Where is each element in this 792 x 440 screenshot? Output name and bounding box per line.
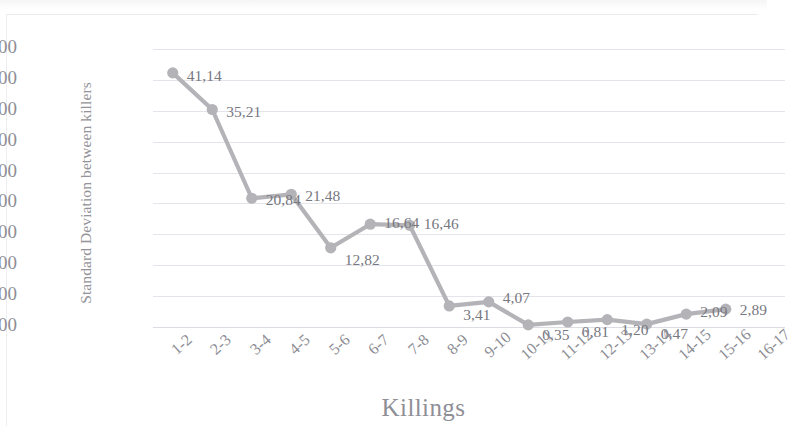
x-axis-title: Killings [40, 394, 792, 422]
data-point-marker [167, 67, 178, 78]
x-axis-tick-label-text: 2-3 [204, 328, 235, 359]
data-point-label: 4,07 [503, 289, 530, 307]
data-point-label: 20,84 [266, 191, 301, 209]
scan-border-top [6, 14, 758, 15]
plot-area: 0,005,0010,0015,0020,0025,0030,0035,0040… [153, 49, 785, 327]
x-axis-tick-label-text: 5-6 [323, 328, 354, 359]
y-axis-tick-label-text: 10,00 [0, 252, 17, 274]
y-axis-tick-label-text: 5,00 [0, 283, 17, 305]
y-axis-tick-label-text: 25,00 [0, 160, 17, 182]
cropped-title-remnant [0, 0, 767, 10]
x-axis-tick-label-text: 8-9 [441, 328, 472, 359]
data-point-label: 12,82 [345, 251, 380, 269]
data-point-marker [207, 104, 218, 115]
data-point-label: 16,46 [424, 215, 459, 233]
x-axis-tick-label-text: 9-10 [478, 325, 515, 361]
data-point-label: 35,21 [226, 103, 261, 121]
data-point-label: 2,09 [700, 303, 727, 321]
data-point-marker [681, 308, 692, 319]
data-point-marker [365, 219, 376, 230]
y-axis-tick-label-text: 20,00 [0, 190, 17, 212]
line-chart: Standard Deviation between killers 0,005… [40, 16, 792, 440]
x-axis-tick-label-text: 1-2 [165, 328, 196, 359]
x-axis-tick-label-text: 4-5 [283, 328, 314, 359]
data-point-label: 41,14 [187, 67, 222, 85]
x-axis-tick-label-text: 6-7 [362, 328, 393, 359]
y-axis-tick-label-text: 45,00 [0, 36, 17, 58]
data-point-label: 3,41 [463, 306, 490, 324]
y-axis-tick-label-text: 40,00 [0, 67, 17, 89]
y-axis-tick-label-text: 35,00 [0, 98, 17, 120]
y-axis-tick-label-text: 15,00 [0, 221, 17, 243]
y-axis-tick-label-text: 0,00 [0, 314, 17, 336]
data-point-marker [325, 242, 336, 253]
series-line [153, 49, 785, 327]
x-axis-tick-label-text: 3-4 [244, 328, 275, 359]
data-point-marker [246, 193, 257, 204]
data-point-label: 21,48 [305, 187, 340, 205]
x-axis-tick-label-text: 15-16 [712, 323, 754, 364]
data-point-label: 16,64 [384, 214, 419, 232]
data-point-marker [523, 319, 534, 330]
gridline [153, 327, 785, 328]
x-axis-tick-label-text: 7-8 [402, 328, 433, 359]
y-axis-title: Standard Deviation between killers [77, 43, 95, 343]
data-point-label: 2,89 [740, 301, 767, 319]
data-point-marker [444, 300, 455, 311]
x-axis-tick-label-text: 16-17 [751, 323, 792, 364]
y-axis-tick-label-text: 30,00 [0, 129, 17, 151]
